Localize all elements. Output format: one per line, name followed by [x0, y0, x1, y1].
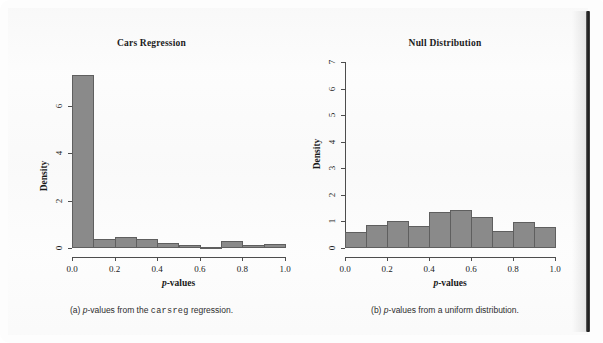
x-tick-a-0: [72, 257, 73, 261]
y-tick-b-6: [341, 89, 345, 90]
x-tick-b-2: [429, 257, 430, 261]
x-axis-line-a: [72, 257, 285, 258]
histogram-bar: [242, 245, 264, 248]
x-tick-label-b-2: 0.4: [416, 264, 442, 274]
histogram-bar: [136, 239, 158, 248]
caption-a-code: carsreg: [151, 306, 189, 316]
plot-area-b: 012345670.00.20.40.60.81.0Densityp-value…: [300, 0, 590, 343]
x-tick-label-a-4: 0.8: [229, 264, 255, 274]
histogram-bar: [115, 237, 137, 248]
y-tick-b-1: [341, 221, 345, 222]
y-tick-b-2: [341, 195, 345, 196]
y-tick-b-7: [341, 62, 345, 63]
histogram-bar: [93, 239, 115, 248]
histogram-bar: [345, 232, 367, 248]
y-tick-b-5: [341, 115, 345, 116]
histogram-bar: [366, 225, 388, 248]
x-tick-b-4: [513, 257, 514, 261]
y-axis-line-b: [345, 62, 346, 248]
x-tick-label-b-0: 0.0: [332, 264, 358, 274]
caption-a-prefix: (a): [70, 305, 80, 315]
histogram-bar: [264, 244, 286, 248]
x-tick-b-3: [471, 257, 472, 261]
x-tick-b-1: [387, 257, 388, 261]
y-tick-label-a-0: 0: [54, 241, 64, 255]
x-tick-a-1: [115, 257, 116, 261]
caption-a-text1: -values from the: [87, 305, 150, 315]
x-tick-a-5: [285, 257, 286, 261]
x-axis-label-rest-b: -values: [438, 278, 467, 288]
figure-caption-b: (b) p-values from a uniform distribution…: [300, 305, 590, 315]
histogram-bar: [492, 231, 514, 248]
histogram-bar: [450, 210, 472, 248]
histogram-bar: [408, 226, 430, 248]
histogram-bar: [534, 227, 556, 248]
histogram-bar: [429, 212, 451, 248]
x-axis-label-a: p-values: [119, 278, 239, 288]
y-tick-label-b-0: 0: [327, 241, 337, 255]
caption-a-text2: regression.: [189, 305, 233, 315]
y-tick-label-a-2: 4: [54, 146, 64, 160]
y-tick-b-0: [341, 248, 345, 249]
x-tick-b-0: [345, 257, 346, 261]
x-tick-label-b-4: 0.8: [500, 264, 526, 274]
x-tick-b-5: [555, 257, 556, 261]
y-axis-label-a: Density: [39, 146, 49, 206]
histogram-bar: [179, 245, 201, 248]
caption-b-prefix: (b): [371, 305, 381, 315]
x-tick-a-4: [242, 257, 243, 261]
y-tick-label-b-2: 2: [327, 188, 337, 202]
x-tick-label-b-1: 0.2: [374, 264, 400, 274]
x-tick-label-a-0: 0.0: [59, 264, 85, 274]
x-axis-line-b: [345, 257, 555, 258]
y-axis-label-b: Density: [312, 124, 322, 184]
figure-a-cars-regression: Cars Regression 02460.00.20.40.60.81.0De…: [0, 0, 303, 343]
y-tick-a-0: [68, 248, 72, 249]
y-tick-label-b-1: 1: [327, 214, 337, 228]
x-tick-label-a-2: 0.4: [144, 264, 170, 274]
y-tick-b-4: [341, 142, 345, 143]
x-axis-label-rest-a: -values: [167, 278, 196, 288]
histogram-bar: [387, 221, 409, 248]
histogram-bar: [72, 75, 94, 248]
x-axis-label-b: p-values: [390, 278, 510, 288]
caption-b-text1: -values from a uniform distribution.: [389, 305, 519, 315]
page-spine-shadow: [572, 11, 586, 332]
y-tick-label-b-5: 5: [327, 108, 337, 122]
figure-page: Cars Regression 02460.00.20.40.60.81.0De…: [0, 0, 603, 343]
histogram-bar: [221, 241, 243, 248]
x-tick-a-2: [157, 257, 158, 261]
y-tick-label-b-4: 4: [327, 135, 337, 149]
x-tick-label-a-5: 1.0: [272, 264, 298, 274]
histogram-bar: [471, 217, 493, 248]
x-tick-label-a-3: 0.6: [187, 264, 213, 274]
y-tick-label-a-3: 6: [54, 99, 64, 113]
x-tick-label-b-5: 1.0: [542, 264, 568, 274]
y-tick-label-b-3: 3: [327, 161, 337, 175]
y-tick-b-3: [341, 168, 345, 169]
plot-area-a: 02460.00.20.40.60.81.0Densityp-values: [0, 0, 303, 343]
histogram-bar: [200, 247, 222, 249]
figure-caption-a: (a) p-values from the carsreg regression…: [0, 305, 303, 316]
x-tick-a-3: [200, 257, 201, 261]
x-tick-label-b-3: 0.6: [458, 264, 484, 274]
y-tick-label-a-1: 2: [54, 194, 64, 208]
figure-b-null-distribution: Null Distribution 012345670.00.20.40.60.…: [300, 0, 590, 343]
x-tick-label-a-1: 0.2: [102, 264, 128, 274]
histogram-bar: [157, 243, 179, 248]
page-spine: [586, 11, 590, 332]
y-tick-label-b-7: 7: [327, 55, 337, 69]
histogram-bar: [513, 222, 535, 248]
y-tick-label-b-6: 6: [327, 82, 337, 96]
